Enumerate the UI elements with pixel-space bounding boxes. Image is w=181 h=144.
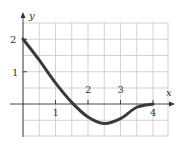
tick-label-x4: 4 [150, 107, 156, 118]
tick-label-x3: 3 [118, 84, 124, 95]
tick-label-y1: 1 [12, 67, 18, 78]
x-axis-label: x [166, 87, 172, 98]
tick-label-y2: 2 [10, 34, 16, 45]
x-axis-arrow-icon [169, 102, 175, 107]
y-axis-label: y [28, 10, 35, 21]
tick-label-x2: 2 [85, 84, 91, 95]
y-axis-arrow-icon [21, 12, 26, 18]
grid [23, 23, 168, 136]
function-graph: y x 1 2 3 4 1 2 [0, 0, 181, 144]
tick-label-x1: 1 [53, 107, 59, 118]
